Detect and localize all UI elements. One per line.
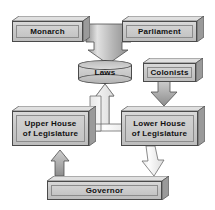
node-lower-house[interactable]: Lower House of Legislature [121, 106, 205, 146]
arrow-governor-to-upper-house [51, 150, 69, 176]
node-label: Laws [78, 60, 132, 84]
node-label: Colonists [150, 68, 188, 78]
arrow-lower-house-to-governor [142, 146, 164, 176]
node-governor[interactable]: Governor [47, 176, 169, 200]
governor-inner-border: Governor [51, 185, 158, 196]
upper-house-inner-border: Upper House of Legislature [16, 115, 85, 142]
monarch-inner-border: Monarch [16, 25, 79, 38]
node-monarch[interactable]: Monarch [12, 16, 90, 42]
arrow-colonists-to-lower-house [151, 80, 177, 106]
colonists-face: Colonists [143, 63, 196, 82]
node-label: Governor [86, 186, 124, 196]
node-upper-house[interactable]: Upper House of Legislature [12, 106, 96, 146]
colonial-government-diagram: Monarch Parliament Laws Colonists [0, 0, 215, 210]
lower-house-inner-border: Lower House of Legislature [125, 115, 194, 142]
node-laws[interactable]: Laws [78, 60, 132, 84]
upper-house-face: Upper House of Legislature [12, 111, 89, 146]
lower-house-face: Lower House of Legislature [121, 111, 198, 146]
node-label: Parliament [138, 27, 181, 37]
node-label: Lower House of Legislature [132, 119, 187, 139]
parliament-face: Parliament [122, 21, 197, 42]
node-label: Monarch [30, 27, 65, 37]
governor-face: Governor [47, 181, 162, 200]
monarch-face: Monarch [12, 21, 83, 42]
parliament-inner-border: Parliament [126, 25, 193, 38]
colonists-inner-border: Colonists [147, 67, 192, 78]
node-colonists[interactable]: Colonists [143, 58, 203, 82]
node-label: Upper House of Legislature [23, 119, 78, 139]
node-parliament[interactable]: Parliament [122, 16, 204, 42]
